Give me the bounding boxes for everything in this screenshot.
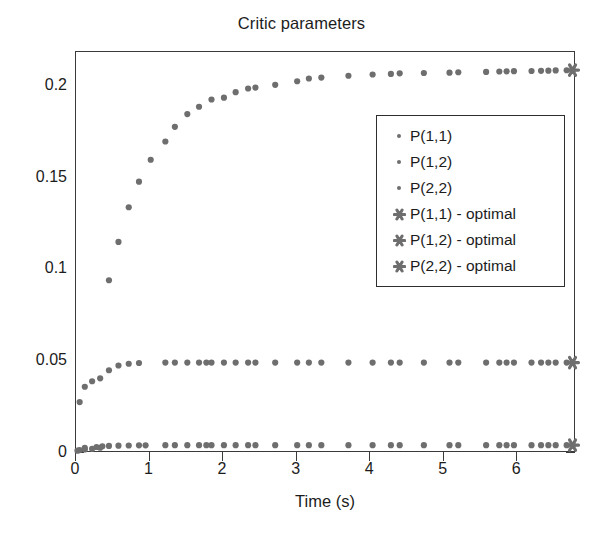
data-point (106, 367, 112, 373)
data-point (528, 442, 534, 448)
data-point (318, 442, 324, 448)
data-point (74, 448, 80, 454)
x-tick-mark (75, 452, 76, 461)
data-point (97, 375, 103, 381)
data-point (455, 360, 461, 366)
data-point (538, 68, 544, 74)
data-point (318, 74, 324, 80)
x-tick-label: 3 (276, 460, 316, 478)
data-point (528, 68, 534, 74)
data-point (252, 85, 258, 91)
data-point (245, 360, 251, 366)
data-point (306, 75, 312, 81)
data-point (272, 360, 278, 366)
data-point (126, 361, 132, 367)
data-point (196, 104, 202, 110)
x-tick-label: 4 (349, 460, 389, 478)
data-point (483, 69, 489, 75)
legend-item-1[interactable]: P(1,2) (377, 149, 564, 175)
data-point (233, 89, 239, 95)
x-tick-mark (369, 452, 370, 461)
data-point (221, 360, 227, 366)
data-point (221, 442, 227, 448)
data-point (496, 442, 502, 448)
legend-item-2[interactable]: P(2,2) (377, 175, 564, 201)
data-point (397, 360, 403, 366)
data-point (388, 442, 394, 448)
data-point (245, 442, 251, 448)
data-point (483, 442, 489, 448)
data-point (93, 444, 99, 450)
data-point (397, 442, 403, 448)
legend-dot-icon (388, 160, 410, 165)
data-point (115, 443, 121, 449)
data-point (106, 277, 112, 283)
data-point (538, 360, 544, 366)
data-point (388, 360, 394, 366)
data-point (446, 70, 452, 76)
legend-item-0[interactable]: P(1,1) (377, 123, 564, 149)
data-point (294, 360, 300, 366)
data-point (99, 443, 105, 449)
data-point (208, 96, 214, 102)
legend-dot-icon (388, 134, 410, 139)
data-point (136, 442, 142, 448)
data-point (184, 111, 190, 117)
y-tick-label: 0 (5, 443, 67, 461)
data-point (126, 204, 132, 210)
data-point (252, 442, 258, 448)
data-point (397, 70, 403, 76)
data-point (221, 95, 227, 101)
data-point (306, 360, 312, 366)
legend-item-4[interactable]: P(1,2) - optimal (377, 227, 564, 253)
data-point (370, 71, 376, 77)
data-point (553, 360, 559, 366)
x-axis-label: Time (s) (75, 492, 575, 511)
data-point (162, 138, 168, 144)
dot-glyph (397, 160, 402, 165)
data-point (136, 179, 142, 185)
data-point (136, 360, 142, 366)
data-point (294, 442, 300, 448)
legend-star-icon (388, 260, 410, 273)
data-point (126, 442, 132, 448)
data-point (272, 82, 278, 88)
data-point (504, 442, 510, 448)
x-tick-mark (516, 452, 517, 461)
legend-item-5[interactable]: P(2,2) - optimal (377, 253, 564, 279)
dot-glyph (397, 134, 402, 139)
x-tick-mark (222, 452, 223, 461)
data-point (455, 442, 461, 448)
y-tick-label: 0.05 (5, 351, 67, 369)
legend-item-label: P(2,2) (410, 179, 452, 197)
data-point (294, 78, 300, 84)
data-point (345, 442, 351, 448)
series-p-2-2-optimal (567, 440, 579, 450)
data-point (208, 360, 214, 366)
legend-item-3[interactable]: P(1,1) - optimal (377, 201, 564, 227)
data-point (208, 442, 214, 448)
series-p-1-2-optimal (567, 357, 579, 367)
data-point (345, 73, 351, 79)
dot-glyph (397, 186, 402, 191)
data-point (172, 124, 178, 130)
legend-star-icon (388, 234, 410, 247)
legend-box: P(1,1)P(1,2)P(2,2)P(1,1) - optimalP(1,2)… (376, 115, 565, 287)
data-point (172, 360, 178, 366)
data-point (388, 71, 394, 77)
data-point (77, 399, 83, 405)
data-point-optimal (567, 357, 579, 367)
data-point (446, 442, 452, 448)
data-point (483, 360, 489, 366)
y-tick-mark (566, 452, 575, 453)
data-point (162, 442, 168, 448)
data-point (172, 442, 178, 448)
x-tick-label: 2 (202, 460, 242, 478)
data-point-optimal (567, 65, 579, 75)
data-point (82, 445, 88, 451)
data-point (184, 360, 190, 366)
data-point (545, 360, 551, 366)
data-point (306, 442, 312, 448)
data-point (115, 239, 121, 245)
data-point (511, 68, 517, 74)
